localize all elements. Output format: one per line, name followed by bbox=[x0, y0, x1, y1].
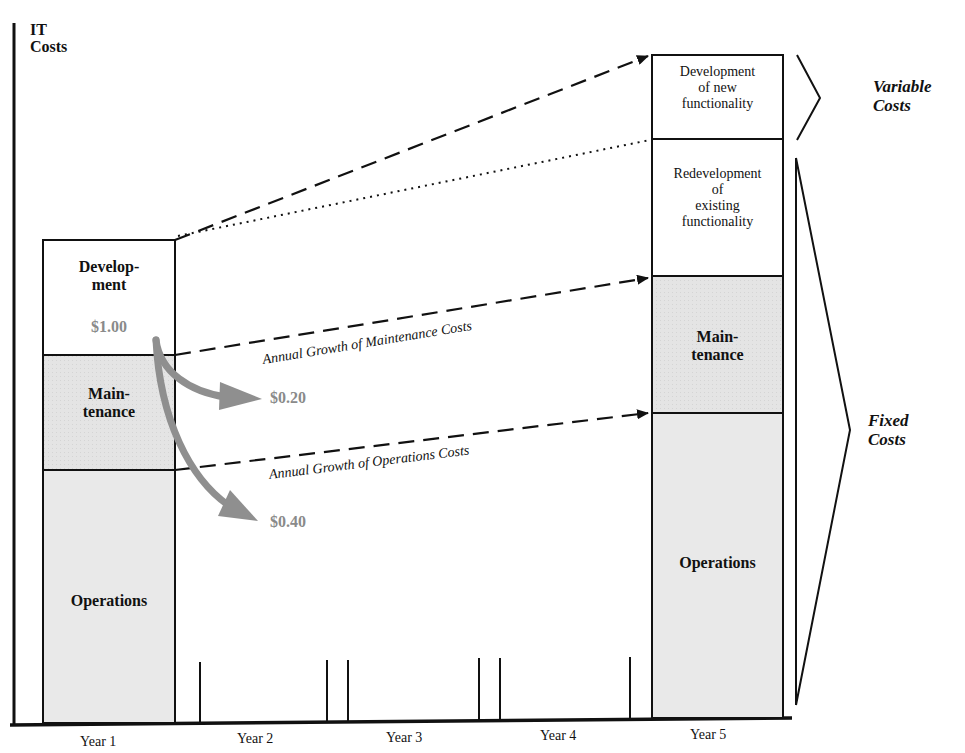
variable-costs-bracket bbox=[797, 55, 820, 140]
x-label-year3: Year 3 bbox=[386, 730, 422, 746]
x-label-year4: Year 4 bbox=[540, 728, 576, 744]
year5-new-development-label: Development of new functionality bbox=[652, 64, 783, 112]
year5-redevelopment-label: Redevelopment of existing functionality bbox=[652, 166, 783, 230]
operations-share-value: $0.40 bbox=[270, 513, 306, 531]
year5-redevelopment-line4: functionality bbox=[652, 214, 783, 230]
year5-operations-label: Operations bbox=[652, 554, 783, 572]
fixed-costs-line2: Costs bbox=[868, 431, 909, 450]
year5-redevelopment-line1: Redevelopment bbox=[652, 166, 783, 182]
year5-bar bbox=[652, 55, 783, 718]
projection-lines bbox=[175, 56, 650, 470]
year5-redevelopment-line2: of bbox=[652, 182, 783, 198]
year1-maintenance-label-line1: Main- bbox=[43, 385, 175, 403]
year1-bar bbox=[43, 240, 175, 723]
operations-share-arrowhead bbox=[218, 490, 258, 521]
year1-development-label-line2: ment bbox=[43, 276, 175, 294]
diagram-canvas bbox=[0, 0, 965, 753]
year5-new-development-line1: Development bbox=[652, 64, 783, 80]
variable-costs-line1: Variable bbox=[873, 78, 932, 97]
year1-development-value: $1.00 bbox=[43, 318, 175, 336]
year5-maintenance-label-line1: Main- bbox=[652, 328, 783, 346]
fixed-costs-label: Fixed Costs bbox=[868, 412, 909, 449]
year5-maintenance-label-line2: tenance bbox=[652, 346, 783, 364]
year1-operations-label: Operations bbox=[43, 592, 175, 610]
y-axis-title-line1: IT bbox=[30, 22, 67, 39]
x-label-year2: Year 2 bbox=[237, 731, 273, 747]
development-growth-dashed-line bbox=[175, 56, 648, 240]
year-tick-marks bbox=[200, 657, 630, 722]
year5-maintenance-label: Main- tenance bbox=[652, 328, 783, 365]
year1-maintenance-label-line2: tenance bbox=[43, 403, 175, 421]
variable-costs-line2: Costs bbox=[873, 97, 932, 116]
year1-development-label: Develop- ment bbox=[43, 258, 175, 295]
maintenance-share-value: $0.20 bbox=[270, 389, 306, 407]
maintenance-share-arrowhead bbox=[219, 382, 262, 410]
year1-maintenance-label: Main- tenance bbox=[43, 385, 175, 422]
brackets bbox=[796, 55, 850, 705]
variable-costs-label: Variable Costs bbox=[873, 78, 932, 115]
year5-new-development-line3: functionality bbox=[652, 96, 783, 112]
redevelopment-dotted-line bbox=[178, 140, 650, 236]
year1-development-label-line1: Develop- bbox=[43, 258, 175, 276]
fixed-costs-bracket bbox=[796, 158, 850, 705]
year5-new-development-line2: of new bbox=[652, 80, 783, 96]
year5-redevelopment-line3: existing bbox=[652, 198, 783, 214]
x-label-year5: Year 5 bbox=[690, 727, 726, 743]
fixed-costs-line1: Fixed bbox=[868, 412, 909, 431]
y-axis-title: IT Costs bbox=[30, 22, 67, 56]
x-label-year1: Year 1 bbox=[80, 734, 116, 750]
y-axis-title-line2: Costs bbox=[30, 39, 67, 56]
